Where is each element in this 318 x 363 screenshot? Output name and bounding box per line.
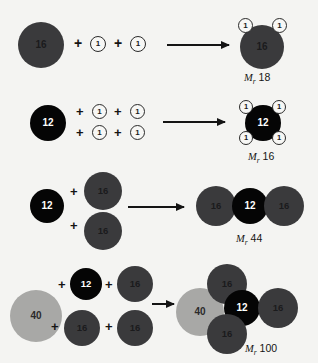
atom-oxygen: 16 [264,186,304,226]
plus-sign: + [74,36,82,50]
atom-hydrogen: 1 [92,125,107,140]
mr-value: 16 [263,150,275,162]
plus-sign: + [114,105,122,118]
mr-label: Mr 100 [245,342,277,357]
atom-carbon: 12 [232,188,268,224]
atom-calcium: 40 [10,290,62,342]
reaction-arrow [152,303,174,305]
atom-carbon: 12 [30,105,66,141]
atom-oxygen: 16 [18,22,64,68]
plus-sign: + [51,320,59,333]
atom-hydrogen: 1 [92,104,107,119]
atom-oxygen: 16 [196,186,236,226]
atom-oxygen: 16 [117,310,153,346]
atom-hydrogen: 1 [272,18,287,33]
atom-hydrogen: 1 [130,104,145,119]
mr-label: Mr 16 [248,150,274,165]
atom-carbon: 12 [70,268,102,300]
plus-sign: + [76,105,84,118]
reaction-arrow [128,206,184,208]
reaction-arrow [167,44,229,46]
atom-oxygen: 16 [64,310,100,346]
atom-hydrogen: 1 [239,100,253,114]
atom-hydrogen: 1 [239,131,253,145]
plus-sign: + [114,36,122,50]
relative-molecular-mass-diagram: 16 + 1 + 1 16 1 1 Mr 18 12 + 1 + 1 + 1 +… [0,0,318,363]
reaction-arrow [163,121,225,123]
plus-sign: + [70,219,78,232]
atom-hydrogen: 1 [272,131,286,145]
mr-subscript: r [245,238,248,247]
mr-label: Mr 44 [236,232,262,247]
atom-oxygen: 16 [207,314,247,354]
mr-symbol: M [236,233,245,244]
mr-value: 18 [259,71,271,83]
mr-subscript: r [257,156,260,165]
atom-oxygen: 16 [84,172,122,210]
plus-sign: + [70,185,78,198]
atom-oxygen: 16 [117,266,153,302]
atom-oxygen: 16 [258,288,298,328]
plus-sign: + [76,126,84,139]
atom-hydrogen: 1 [130,36,146,52]
atom-hydrogen: 1 [130,125,145,140]
mr-subscript: r [254,348,257,357]
atom-hydrogen: 1 [90,36,106,52]
atom-hydrogen: 1 [272,100,286,114]
mr-label: Mr 18 [244,71,270,86]
mr-symbol: M [245,343,254,354]
plus-sign: + [114,126,122,139]
mr-symbol: M [244,72,253,83]
atom-oxygen: 16 [84,212,122,250]
atom-carbon: 12 [30,189,64,223]
plus-sign: + [105,320,113,333]
mr-value: 44 [251,232,263,244]
mr-symbol: M [248,151,257,162]
mr-value: 100 [260,342,278,354]
mr-subscript: r [253,77,256,86]
plus-sign: + [105,278,113,291]
atom-hydrogen: 1 [238,18,253,33]
plus-sign: + [58,278,66,291]
